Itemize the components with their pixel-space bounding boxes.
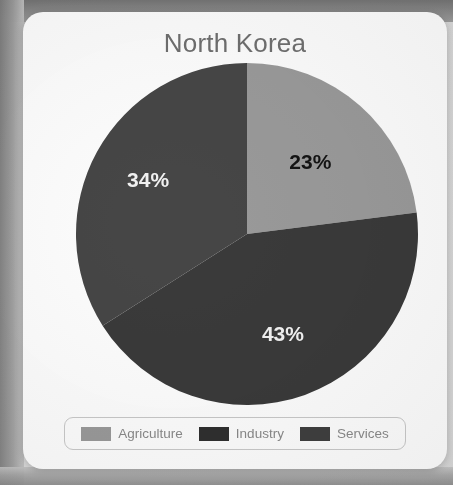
pie-slices <box>76 63 418 405</box>
chart-legend: Agriculture Industry Services <box>64 417 406 450</box>
legend-item-label: Industry <box>236 426 284 441</box>
pie-slice-label: 34% <box>127 168 169 191</box>
pie-slice-label: 23% <box>289 150 331 173</box>
page-background-bottom-shade <box>0 467 453 485</box>
chart-card: North Korea 23%43%34% Agriculture Indust… <box>23 12 447 469</box>
legend-item[interactable]: Services <box>300 426 389 441</box>
pie-chart: 23%43%34% <box>75 62 419 406</box>
page-title: North Korea <box>23 28 447 59</box>
legend-item-label: Services <box>337 426 389 441</box>
chart-screenshot: North Korea 23%43%34% Agriculture Indust… <box>0 0 453 485</box>
legend-item[interactable]: Agriculture <box>81 426 183 441</box>
legend-swatch-icon <box>300 427 330 441</box>
legend-item-label: Agriculture <box>118 426 183 441</box>
pie-slice-label: 43% <box>262 322 304 345</box>
legend-swatch-icon <box>199 427 229 441</box>
legend-swatch-icon <box>81 427 111 441</box>
pie-chart-svg: 23%43%34% <box>75 62 419 406</box>
legend-item[interactable]: Industry <box>199 426 284 441</box>
pie-slice[interactable] <box>247 63 417 234</box>
page-background-left-shade <box>0 0 24 485</box>
